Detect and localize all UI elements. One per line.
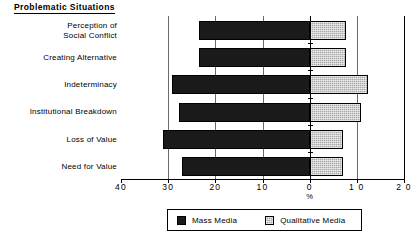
category-label-5: Need for Value <box>61 162 117 172</box>
black-square-icon <box>177 216 186 225</box>
zero-axis-marker-3 <box>308 125 313 126</box>
category-label-4: Loss of Value <box>67 135 117 145</box>
x-tick-label-20: 2 0 <box>396 182 411 192</box>
page-title: Problematic Situations <box>14 2 115 14</box>
x-tick-label-0: 0 <box>307 182 313 192</box>
category-label-line: Institutional Breakdown <box>30 107 117 117</box>
zero-axis-marker-2 <box>308 98 313 99</box>
bar-qualitative-media-3 <box>310 103 361 122</box>
category-label-line: Creating Alternative <box>43 53 117 63</box>
category-label-line: Loss of Value <box>67 135 117 145</box>
plot-area <box>121 16 404 179</box>
bar-mass-media-2 <box>172 75 310 94</box>
zero-axis-marker-0 <box>308 43 313 44</box>
legend-label-qualitative-media: Qualitative Media <box>280 216 345 225</box>
category-label-0: Perception ofSocial Conflict <box>63 21 117 40</box>
bar-mass-media-0 <box>199 21 310 40</box>
zero-axis-marker-1 <box>308 70 313 71</box>
gridline-10 <box>357 16 358 179</box>
legend-item-qualitative-media: Qualitative Media <box>265 216 345 225</box>
category-label-line: Perception of <box>63 21 117 31</box>
zero-axis-marker-4 <box>308 152 313 153</box>
category-label-1: Creating Alternative <box>43 53 117 63</box>
gridline--20 <box>215 16 216 179</box>
legend-item-mass-media: Mass Media <box>177 216 237 225</box>
bar-qualitative-media-5 <box>310 157 343 176</box>
bar-mass-media-1 <box>199 48 309 67</box>
category-label-column: Perception ofSocial ConflictCreating Alt… <box>0 16 117 179</box>
gridline-20 <box>404 16 405 179</box>
x-tick-label-10: 10 <box>257 182 269 192</box>
bar-qualitative-media-0 <box>310 21 347 40</box>
bar-mass-media-3 <box>179 103 309 122</box>
category-label-line: Social Conflict <box>63 31 117 41</box>
bar-mass-media-4 <box>163 130 310 149</box>
gridline--10 <box>263 16 264 179</box>
category-label-line: Indeterminacy <box>64 80 117 90</box>
bar-qualitative-media-2 <box>310 75 368 94</box>
bar-qualitative-media-1 <box>310 48 347 67</box>
x-tick-label-40: 40 <box>115 182 127 192</box>
bar-mass-media-5 <box>182 157 309 176</box>
legend-label-mass-media: Mass Media <box>192 216 237 225</box>
x-tick-label-20: 20 <box>209 182 221 192</box>
chart-root: Problematic Situations Perception ofSoci… <box>0 0 418 239</box>
x-tick-label-10: 1 0 <box>349 182 364 192</box>
chart-legend: Mass Media Qualitative Media <box>167 209 362 231</box>
category-label-2: Indeterminacy <box>64 80 117 90</box>
x-axis-title: % <box>306 192 313 201</box>
bar-qualitative-media-4 <box>310 130 343 149</box>
category-label-3: Institutional Breakdown <box>30 107 117 117</box>
x-tick-label-30: 30 <box>162 182 174 192</box>
gridline--30 <box>168 16 169 179</box>
category-label-line: Need for Value <box>61 162 117 172</box>
gray-square-icon <box>265 216 274 225</box>
